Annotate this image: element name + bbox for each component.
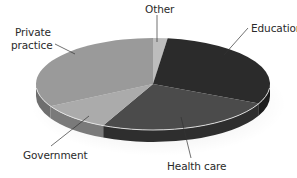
label-private-practice-line2: practice — [11, 39, 53, 51]
leader-education — [224, 28, 248, 55]
label-education: Education — [251, 22, 297, 34]
leader-private — [55, 44, 75, 54]
label-government: Government — [23, 149, 87, 161]
label-health-care: Health care — [167, 160, 226, 172]
label-other: Other — [145, 3, 174, 15]
label-private-practice-line1: Private — [15, 26, 51, 38]
